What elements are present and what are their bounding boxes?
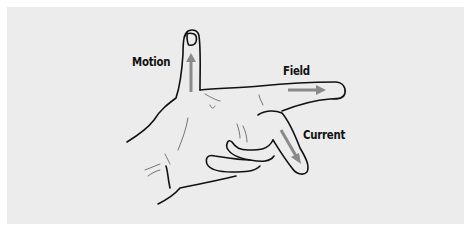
wrist-line	[166, 166, 170, 188]
current-label: Current	[303, 128, 345, 142]
thumb-outline	[127, 30, 200, 142]
field-arrowhead	[316, 85, 326, 95]
palm-crease	[210, 105, 215, 108]
motion-label: Motion	[132, 55, 170, 69]
palm-crease	[243, 126, 247, 142]
motion-arrowhead	[186, 53, 196, 62]
wrist-crease	[145, 164, 160, 170]
field-label: Field	[283, 64, 310, 78]
pinky-outline	[206, 155, 260, 172]
hand-illustration	[0, 0, 473, 231]
palm-crease	[178, 118, 188, 150]
palm-crease	[237, 124, 240, 138]
palm-crease	[259, 95, 263, 105]
index-finger-outline	[200, 82, 345, 111]
palm-crease	[205, 94, 220, 101]
wrist-crease	[165, 154, 170, 164]
thumbnail	[187, 33, 196, 45]
current-arrowhead	[291, 153, 301, 164]
middle-finger-outline	[258, 111, 308, 174]
palm-lower-edge	[158, 176, 236, 204]
wrist-crease	[148, 170, 160, 176]
